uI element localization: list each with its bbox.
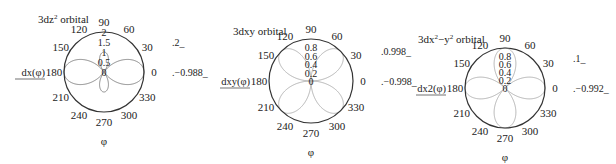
angle-tick-label: 180 bbox=[251, 75, 268, 87]
angle-tick-label: 60 bbox=[124, 23, 136, 35]
angle-tick-label: 330 bbox=[540, 107, 557, 119]
angle-tick-label: 300 bbox=[121, 109, 138, 121]
angle-tick-label: 330 bbox=[348, 101, 365, 113]
angle-tick-label: 0 bbox=[151, 66, 157, 78]
angle-tick-label: 0 bbox=[360, 75, 366, 87]
phi-axis-label: φ bbox=[502, 151, 508, 163]
radial-tick-label: 1.5 bbox=[98, 37, 111, 48]
angle-tick-label: 240 bbox=[71, 109, 88, 121]
function-label: dxy(φ) bbox=[221, 76, 250, 88]
function-label: dx(φ) bbox=[21, 67, 45, 79]
radial-tick-label: 2 bbox=[102, 27, 107, 38]
angle-tick-label: 0 bbox=[552, 82, 558, 94]
angle-tick-label: 150 bbox=[52, 41, 69, 53]
angle-tick-label: 60 bbox=[332, 30, 344, 42]
angle-tick-label: 30 bbox=[142, 41, 154, 53]
angle-tick-label: 90 bbox=[500, 32, 512, 44]
angle-tick-label: 120 bbox=[472, 39, 489, 51]
angle-tick-label: 90 bbox=[306, 23, 318, 35]
phi-axis-label: φ bbox=[101, 135, 107, 147]
radial-tick-label: 0.8 bbox=[499, 51, 512, 62]
angle-tick-label: 300 bbox=[522, 125, 539, 137]
angle-tick-label: 240 bbox=[472, 125, 489, 137]
side-label-lower: .−0.988_ bbox=[172, 67, 209, 78]
angle-tick-label: 180 bbox=[447, 82, 464, 94]
angle-tick-label: 30 bbox=[351, 49, 363, 61]
side-label-lower: .−0.992_ bbox=[573, 83, 610, 94]
angle-tick-label: 270 bbox=[303, 127, 320, 139]
side-label-lower: .−0.998_ bbox=[381, 76, 418, 87]
angle-tick-label: 210 bbox=[453, 107, 470, 119]
side-label-upper: .2_ bbox=[172, 37, 186, 48]
radial-tick-label: 0 bbox=[102, 67, 107, 78]
angle-tick-label: 120 bbox=[277, 30, 294, 42]
polar-chart-3: 3dx2−y2 orbital0306090120150180210240270… bbox=[416, 32, 610, 163]
side-label-upper: .1_ bbox=[573, 53, 587, 64]
angle-tick-label: 300 bbox=[329, 120, 346, 132]
angle-tick-label: 210 bbox=[258, 101, 275, 113]
radial-tick-label: 1 bbox=[102, 47, 107, 58]
angle-tick-label: 150 bbox=[258, 49, 275, 61]
angle-tick-label: 240 bbox=[277, 120, 294, 132]
angle-tick-label: 30 bbox=[543, 57, 555, 69]
angle-tick-label: 180 bbox=[46, 66, 63, 78]
radial-tick-label: 0.5 bbox=[98, 57, 111, 68]
phi-axis-label: φ bbox=[308, 146, 314, 158]
angle-tick-label: 150 bbox=[453, 57, 470, 69]
orbital-polar-plots: 3dz2 orbital0306090120150180210240270300… bbox=[0, 0, 616, 164]
radial-tick-label: 0.8 bbox=[305, 42, 318, 53]
polar-chart-2: 3dxy orbital0306090120150180210240270300… bbox=[220, 23, 418, 158]
angle-tick-label: 270 bbox=[96, 116, 113, 128]
angle-tick-label: 210 bbox=[52, 91, 69, 103]
side-label-upper: .0.998_ bbox=[381, 46, 412, 57]
angle-tick-label: 270 bbox=[497, 132, 514, 144]
angle-tick-label: 120 bbox=[71, 23, 88, 35]
polar-chart-1: 3dz2 orbital0306090120150180210240270300… bbox=[15, 13, 209, 147]
angle-tick-label: 60 bbox=[525, 39, 537, 51]
function-label: dx2(φ) bbox=[417, 83, 446, 95]
angle-tick-label: 330 bbox=[139, 91, 156, 103]
